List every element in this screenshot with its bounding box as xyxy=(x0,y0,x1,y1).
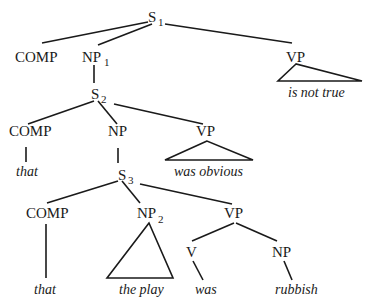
node-np3: NP xyxy=(272,244,291,260)
node-comp1: COMP xyxy=(15,49,58,65)
node-label: S xyxy=(118,167,126,183)
node-vp2: VP xyxy=(196,123,215,139)
node-vp3: VP xyxy=(224,205,243,221)
triangle-vp2 xyxy=(165,141,253,160)
leaf-that-1: that xyxy=(16,164,39,179)
triangle-np2 xyxy=(107,223,173,278)
node-s3: S 3 xyxy=(118,167,134,186)
node-label: S xyxy=(91,86,99,102)
leaf-is-not-true: is not true xyxy=(288,85,345,100)
node-subscript: 1 xyxy=(158,16,164,28)
node-label: NP xyxy=(82,49,101,65)
leaf-rubbish: rubbish xyxy=(275,282,318,297)
node-comp3: COMP xyxy=(26,205,69,221)
node-vp1: VP xyxy=(286,49,305,65)
edge-v-was xyxy=(193,261,203,280)
edge-s3-vp xyxy=(140,184,232,204)
syntax-tree-diagram: S 1 COMP NP 1 VP is not true S 2 COMP th… xyxy=(0,0,376,307)
edge-np3-rubbish xyxy=(284,261,292,280)
edge-s1-vp xyxy=(165,24,292,43)
leaf-was-obvious: was obvious xyxy=(174,164,243,179)
edge-s2-vp xyxy=(114,104,203,124)
edge-vp3-np xyxy=(236,223,277,241)
node-v: V xyxy=(186,244,197,260)
node-label: NP xyxy=(137,205,156,221)
triangle-vp1 xyxy=(278,64,362,81)
node-np2: NP 2 xyxy=(137,205,164,225)
node-comp2: COMP xyxy=(9,123,52,139)
leaf-was: was xyxy=(195,282,217,297)
node-subscript: 1 xyxy=(104,56,110,68)
node-np: NP xyxy=(108,123,127,139)
edge-s2-comp xyxy=(28,101,94,124)
node-label: S xyxy=(148,9,156,25)
leaf-that-2: that xyxy=(34,282,57,297)
leaf-the-play: the play xyxy=(119,282,164,297)
edge-s3-comp xyxy=(47,181,118,203)
node-subscript: 2 xyxy=(158,213,164,225)
edge-vp3-v xyxy=(192,223,234,241)
node-subscript: 3 xyxy=(128,174,134,186)
node-subscript: 2 xyxy=(101,93,107,105)
node-np1: NP 1 xyxy=(82,49,110,68)
